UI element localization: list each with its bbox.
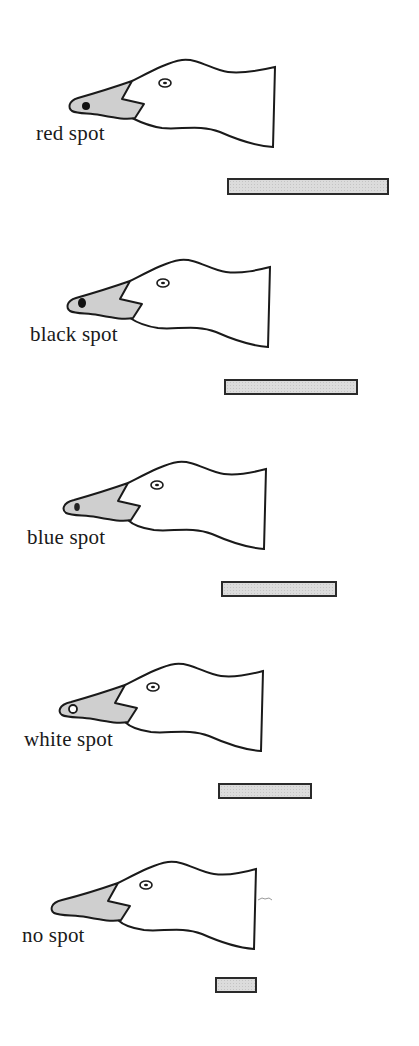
head-outline [130,260,270,347]
bill-spot-white [69,705,77,713]
response-bar-no-spot [215,977,257,993]
stimulus-row-red-spot: red spot [0,50,419,250]
head-outline [118,862,256,949]
print-smudge [258,898,272,900]
head-outline [128,462,266,549]
response-bar-white-spot [218,783,312,799]
stimulus-label: white spot [24,729,113,750]
stimulus-label: black spot [30,324,118,345]
stimulus-label: blue spot [27,527,105,548]
stimulus-label: no spot [22,925,85,946]
stimulus-row-black-spot: black spot [0,250,419,450]
head-outline [132,60,275,147]
stimulus-row-blue-spot: blue spot [0,452,419,652]
stimulus-row-no-spot: no spot [0,852,419,1046]
response-bar-blue-spot [221,581,337,597]
bill-spot-red [82,102,90,110]
stimulus-row-white-spot: white spot [0,654,419,854]
bill-spot-blue [74,503,80,511]
head-outline [125,664,263,751]
stimulus-label: red spot [36,123,105,144]
response-bar-red-spot [227,178,389,195]
bill-spot-black [78,298,86,308]
response-bar-black-spot [224,379,358,395]
